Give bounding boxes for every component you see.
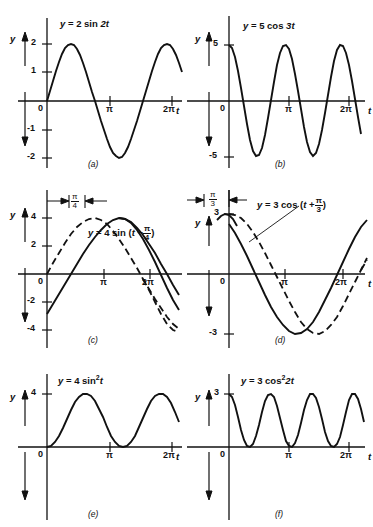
panel-b-t-axis-label: t xyxy=(368,106,371,116)
panel-d-caption: (d) xyxy=(275,336,285,345)
eq-function: sin xyxy=(82,375,96,386)
panel-f-equation: y = 3 cos22t xyxy=(241,374,294,386)
panel-b-xtick-2pi: 2π xyxy=(340,105,352,114)
eq-equals: = xyxy=(96,227,102,238)
eq-equals: = xyxy=(66,375,72,386)
y-direction-arrow xyxy=(22,390,28,500)
eq-equals: = xyxy=(251,20,257,31)
eq-lhs: y xyxy=(58,375,63,386)
eq-lhs: y xyxy=(60,18,65,29)
panel-e-y-axis-label: y xyxy=(10,392,15,402)
curve-solid-peak xyxy=(217,214,237,226)
figure-sheet: y t 2 1 -1 -2 0 π 2π y = 2 sin 2t (a) xyxy=(0,0,373,527)
eq-function: cos xyxy=(267,20,283,31)
panel-b-xtick-pi: π xyxy=(285,105,292,114)
eq-argument: 2t xyxy=(285,375,293,386)
eq-variable: t xyxy=(303,199,306,210)
panel-a-y-axis-label: y xyxy=(10,34,15,44)
panel-c: y 4 2 -2 -4 0 π 2π π4 y = 4 sin (t −π4) … xyxy=(0,176,186,352)
eq-amplitude: 2 xyxy=(76,18,81,29)
panel-d-xtick-2pi: 2π xyxy=(335,278,347,287)
panel-c-equation: y = 4 sin (t −π4) xyxy=(88,224,154,241)
panel-d: y t 3 -3 0 π 2π π3 y = 3 cos (t +π3) (d) xyxy=(187,176,373,352)
panel-d-ytick-neg3: -3 xyxy=(209,328,217,337)
panel-b-ytick-neg5: -5 xyxy=(209,151,217,160)
panel-e-xtick-pi: π xyxy=(106,451,113,460)
curve-solid xyxy=(47,394,179,447)
eq-function: sin xyxy=(112,227,126,238)
panel-d-equation: y = 3 cos (t +π3) xyxy=(257,196,326,213)
panel-c-caption: (c) xyxy=(88,336,98,345)
eq-equals: = xyxy=(68,18,74,29)
panel-b: y t 5 -5 0 π 2π y = 5 cos 3t (b) xyxy=(187,0,373,176)
panel-c-xtick-pi: π xyxy=(100,278,107,287)
panel-e-xtick-0: 0 xyxy=(38,450,43,459)
panel-c-y-axis-label: y xyxy=(10,210,15,220)
panel-b-ytick-5: 5 xyxy=(213,39,218,48)
panel-f-xtick-0: 0 xyxy=(220,450,225,459)
panel-e-t-axis-label: t xyxy=(176,452,179,462)
panel-c-xtick-2pi: 2π xyxy=(142,278,154,287)
phase-fraction: π4 xyxy=(71,193,79,210)
panel-f-t-axis-label: t xyxy=(368,452,371,462)
eq-function: sin xyxy=(84,18,98,29)
panel-c-ytick-neg2: -2 xyxy=(27,296,35,305)
eq-equals: = xyxy=(249,375,255,386)
eq-equals: = xyxy=(265,199,271,210)
eq-lhs: y xyxy=(88,227,93,238)
eq-fraction: π4 xyxy=(143,225,151,242)
panel-f-xtick-pi: π xyxy=(285,451,292,460)
panel-e-ytick-4: 4 xyxy=(31,388,36,397)
panel-f-caption: (f) xyxy=(275,510,283,519)
panel-d-ytick-3: 3 xyxy=(214,208,219,217)
panel-b-y-axis-label: y xyxy=(195,34,200,44)
panel-f-y-axis-label: y xyxy=(195,392,200,402)
panel-b-equation: y = 5 cos 3t xyxy=(243,21,295,31)
panel-c-ytick-neg4: -4 xyxy=(27,324,35,333)
panel-a-xtick-2pi: 2π xyxy=(163,105,175,114)
panel-a-equation: y = 2 sin 2t xyxy=(60,19,109,29)
panel-b-caption: (b) xyxy=(275,160,285,169)
eq-amplitude: 4 xyxy=(74,375,79,386)
eq-argument: t xyxy=(100,375,103,386)
curve-solid xyxy=(229,394,364,447)
panel-e-caption: (e) xyxy=(88,510,98,519)
eq-variable: t xyxy=(132,227,135,238)
phase-marker-arrows xyxy=(187,190,247,207)
panel-b-xtick-0: 0 xyxy=(220,104,225,113)
panel-a-xtick-0: 0 xyxy=(38,104,43,113)
eq-close-paren: ) xyxy=(323,199,326,210)
panel-d-y-axis-label: y xyxy=(195,218,200,228)
eq-fraction: π3 xyxy=(315,197,323,214)
panel-d-xtick-pi: π xyxy=(281,278,288,287)
eq-amplitude: 3 xyxy=(257,375,262,386)
panel-a: y t 2 1 -1 -2 0 π 2π y = 2 sin 2t (a) xyxy=(0,0,186,176)
eq-function: cos xyxy=(265,375,281,386)
panel-a-ytick-neg1: -1 xyxy=(27,124,35,133)
panel-d-xtick-0: 0 xyxy=(220,277,225,286)
panel-c-phase-label: π4 xyxy=(71,192,79,209)
panel-a-ytick-neg2: -2 xyxy=(27,152,35,161)
eq-close-paren: ) xyxy=(151,227,154,238)
panel-c-xtick-0: 0 xyxy=(38,277,43,286)
eq-argument: 3t xyxy=(286,20,294,31)
eq-lhs: y xyxy=(243,20,248,31)
eq-function: cos xyxy=(281,199,297,210)
eq-lhs: y xyxy=(257,199,262,210)
panel-d-phase-label: π3 xyxy=(209,190,217,207)
eq-lhs: y xyxy=(241,375,246,386)
panel-f: y t 3 0 π 2π y = 3 cos22t (f) xyxy=(187,352,373,527)
y-direction-arrow xyxy=(206,216,212,316)
panel-d-t-axis-label: t xyxy=(368,279,371,289)
y-direction-arrow xyxy=(206,390,212,500)
eq-amplitude: 5 xyxy=(259,20,264,31)
panel-a-ytick-2: 2 xyxy=(31,38,36,47)
eq-amplitude: 4 xyxy=(104,227,109,238)
panel-f-ytick-3: 3 xyxy=(214,388,219,397)
panel-c-ytick-4: 4 xyxy=(31,212,36,221)
phase-fraction: π3 xyxy=(209,191,217,208)
eq-amplitude: 3 xyxy=(273,199,278,210)
panel-a-xtick-pi: π xyxy=(106,105,113,114)
panel-a-caption: (a) xyxy=(88,160,98,169)
panel-c-ytick-2: 2 xyxy=(31,240,36,249)
